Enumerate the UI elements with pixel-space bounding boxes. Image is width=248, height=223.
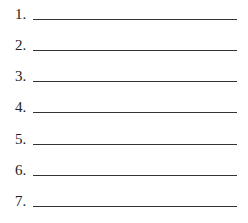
blank-line[interactable]	[33, 50, 237, 51]
blank-line[interactable]	[33, 206, 237, 207]
list-item: 1.	[15, 2, 237, 22]
list-item: 2.	[15, 33, 237, 53]
list-item: 5.	[15, 127, 237, 147]
item-number: 3.	[15, 69, 33, 84]
list-item: 4.	[15, 95, 237, 115]
item-number: 7.	[15, 194, 33, 209]
item-number: 2.	[15, 38, 33, 53]
list-item: 3.	[15, 64, 237, 84]
blank-line[interactable]	[33, 81, 237, 82]
blank-line[interactable]	[33, 144, 237, 145]
blank-line[interactable]	[33, 175, 237, 176]
list-item: 7.	[15, 189, 237, 209]
item-number: 4.	[15, 100, 33, 115]
item-number: 5.	[15, 132, 33, 147]
item-number: 6.	[15, 163, 33, 178]
item-number: 1.	[15, 7, 33, 22]
blank-line[interactable]	[33, 112, 237, 113]
blank-line[interactable]	[33, 19, 237, 20]
list-item: 6.	[15, 158, 237, 178]
